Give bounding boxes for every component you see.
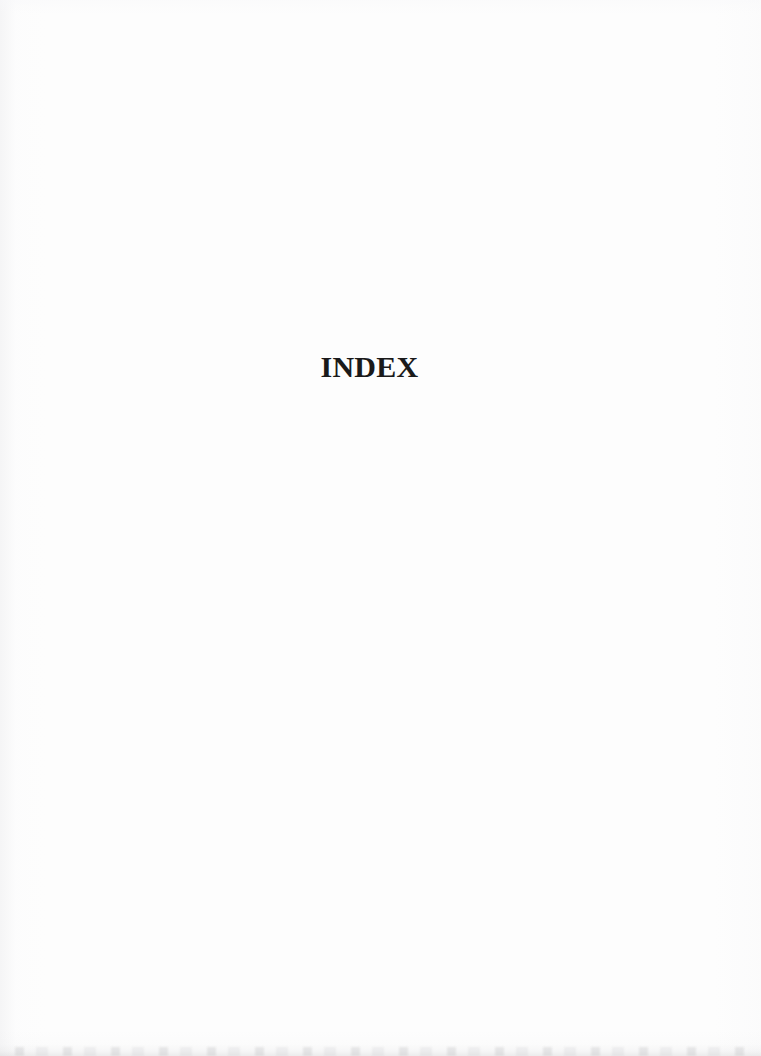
- paper-tone-overlay: [0, 0, 761, 1056]
- page-title: INDEX: [320, 352, 418, 382]
- top-edge-tone: [0, 0, 761, 14]
- scanned-page: INDEX: [0, 0, 761, 1056]
- bottom-edge-scan-smudge: [0, 1030, 761, 1056]
- index-heading-block: INDEX: [0, 352, 739, 382]
